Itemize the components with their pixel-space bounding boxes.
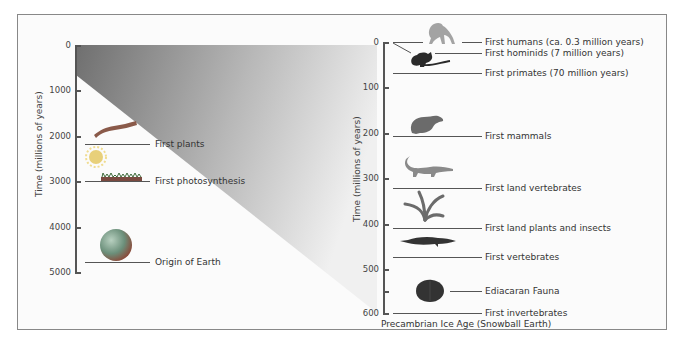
left-axis-title: Time (millions of years) <box>34 91 44 197</box>
left-tick-label: 5000 <box>35 267 71 277</box>
earth-icon <box>99 228 133 262</box>
left-tick <box>75 227 81 229</box>
right-tick-label: 0 <box>343 37 379 47</box>
left-tick <box>75 45 81 47</box>
event-line <box>85 144 150 145</box>
left-tick <box>75 136 81 138</box>
event-line <box>393 188 482 189</box>
left-tick <box>75 90 81 92</box>
event-label-first-land-plants: First land plants and insects <box>485 223 611 233</box>
event-label-ediacaran-fauna: Ediacaran Fauna <box>485 286 559 296</box>
event-line <box>435 53 482 54</box>
event-label-origin-of-earth: Origin of Earth <box>155 257 221 267</box>
amphibian-icon <box>402 154 456 178</box>
event-line <box>85 262 150 263</box>
precambrian-caption: Precambrian Ice Age (Snowball Earth) <box>381 319 551 329</box>
event-line <box>393 257 482 258</box>
event-label-first-mammals: First mammals <box>485 131 551 141</box>
event-label-first-land-vertebrates: First land vertebrates <box>485 183 581 193</box>
left-axis-line <box>75 45 77 273</box>
event-line <box>462 42 482 43</box>
event-line <box>450 291 482 292</box>
right-tick <box>383 42 389 44</box>
event-label-first-hominids: First hominids (7 million years) <box>485 48 624 58</box>
right-tick <box>383 178 389 180</box>
event-label-first-plants: First plants <box>155 139 204 149</box>
ape-icon <box>420 22 460 46</box>
right-tick <box>383 224 389 226</box>
fish-icon <box>398 235 458 249</box>
event-label-first-primates: First primates (70 million years) <box>485 68 629 78</box>
event-line <box>393 228 482 229</box>
right-tick-label: 600 <box>343 308 379 318</box>
left-tick-label: 0 <box>35 40 71 50</box>
right-tick-label: 500 <box>343 264 379 274</box>
right-tick <box>383 291 389 293</box>
right-tick <box>383 133 389 135</box>
event-line <box>393 313 482 314</box>
algae-icon <box>90 118 140 138</box>
right-axis-title: Time (millions of years) <box>352 116 362 222</box>
right-tick-label: 100 <box>343 82 379 92</box>
mammal-icon <box>408 112 448 136</box>
ediacaran-icon <box>412 278 446 304</box>
left-tick-label: 4000 <box>35 222 71 232</box>
right-tick <box>383 87 389 89</box>
left-tick <box>75 272 81 274</box>
primate-icon <box>408 48 458 70</box>
event-line <box>393 73 482 74</box>
event-line <box>393 136 482 137</box>
event-label-first-photosynthesis: First photosynthesis <box>155 176 245 186</box>
event-label-first-invertebrates: First invertebrates <box>485 308 567 318</box>
event-label-first-humans: First humans (ca. 0.3 million years) <box>485 37 644 47</box>
event-line <box>85 181 150 182</box>
event-label-first-vertebrates: First vertebrates <box>485 252 559 262</box>
right-tick <box>383 269 389 271</box>
land-plant-icon <box>403 190 447 222</box>
sun-icon <box>85 146 107 168</box>
right-tick <box>383 313 389 315</box>
connector-line <box>393 43 413 57</box>
left-tick <box>75 181 81 183</box>
